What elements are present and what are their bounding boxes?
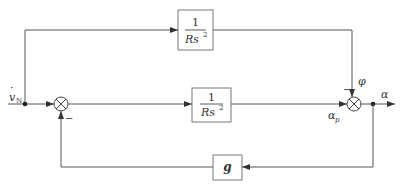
- block-diagram: 1 Rs 2 v · N − 1 Rs 2 α p: [0, 0, 400, 186]
- top-block-denominator: Rs: [184, 33, 199, 46]
- phi-label: φ: [358, 75, 366, 88]
- top-block-numerator: 1: [192, 16, 199, 29]
- main-block-exponent: 2: [219, 104, 223, 112]
- main-block-numerator: 1: [208, 91, 215, 104]
- svg-text:p: p: [335, 116, 340, 124]
- main-block-denominator: Rs: [200, 106, 215, 119]
- top-transfer-block: 1 Rs 2: [178, 10, 213, 50]
- sum2-minus-sign: −: [343, 84, 351, 95]
- feedback-gain-block: g: [213, 155, 242, 180]
- input-label: v · N: [9, 82, 22, 105]
- output-alpha-label: α: [381, 88, 389, 101]
- top-block-exponent: 2: [203, 31, 207, 39]
- alpha-p-label: α p: [328, 109, 340, 124]
- input-dot: ·: [10, 82, 14, 95]
- summing-junction-1: −: [54, 97, 73, 124]
- gain-g-label: g: [223, 160, 231, 174]
- summing-junction-2: − φ: [343, 75, 366, 111]
- main-transfer-block: 1 Rs 2: [192, 88, 231, 122]
- sum1-minus-sign: −: [65, 113, 73, 124]
- input-branch-point: [23, 102, 28, 107]
